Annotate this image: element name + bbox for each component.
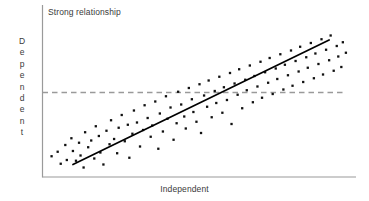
data-point	[157, 148, 159, 150]
y-axis-label-letter: n	[20, 116, 25, 127]
data-point	[200, 132, 202, 134]
plot-canvas	[0, 0, 369, 201]
data-point	[195, 121, 197, 123]
data-point	[128, 157, 130, 159]
data-point	[57, 151, 59, 153]
data-point	[226, 99, 228, 101]
data-point	[307, 67, 309, 69]
data-point	[317, 63, 319, 65]
data-point	[256, 85, 258, 87]
trend-line	[73, 40, 329, 165]
data-point	[328, 59, 330, 61]
data-point	[192, 111, 194, 113]
y-axis-label-letter: p	[20, 59, 25, 70]
data-point	[238, 68, 240, 70]
data-point	[183, 115, 185, 117]
data-point	[60, 163, 62, 165]
data-point	[82, 166, 84, 168]
data-point	[297, 70, 299, 72]
data-point	[208, 79, 210, 81]
data-point	[105, 130, 107, 132]
data-point	[320, 38, 322, 40]
data-point	[299, 46, 301, 48]
data-point	[337, 55, 339, 57]
data-point	[50, 155, 52, 157]
data-point	[279, 53, 281, 55]
data-point	[121, 114, 123, 116]
data-point	[64, 144, 66, 146]
axes	[43, 5, 357, 178]
data-point	[203, 94, 205, 96]
data-point	[93, 157, 95, 159]
data-point	[252, 101, 254, 103]
data-point	[188, 87, 190, 89]
data-point	[139, 145, 141, 147]
data-point	[79, 154, 81, 156]
data-point	[302, 81, 304, 83]
data-point	[211, 116, 213, 118]
data-point	[218, 76, 220, 78]
data-point	[162, 130, 164, 132]
x-axis-label: Independent	[0, 184, 369, 194]
data-point	[177, 91, 179, 93]
y-axis-label-letter: e	[20, 47, 25, 58]
data-point	[249, 64, 251, 66]
data-point	[78, 142, 80, 144]
y-axis-label-letter: e	[20, 70, 25, 81]
data-point	[136, 121, 138, 123]
data-point	[345, 52, 347, 54]
data-point	[287, 74, 289, 76]
data-point	[305, 56, 307, 58]
y-axis-label-letter: D	[19, 36, 25, 47]
data-point	[98, 135, 100, 137]
data-point	[291, 85, 293, 87]
data-point	[180, 103, 182, 105]
data-point	[113, 138, 115, 140]
trend-line-path	[73, 40, 329, 165]
y-axis-label: Dependent	[14, 36, 30, 139]
data-point	[143, 104, 145, 106]
data-point	[87, 146, 89, 148]
data-point	[102, 163, 104, 165]
data-point	[246, 89, 248, 91]
data-point	[133, 109, 135, 111]
data-point	[269, 57, 271, 59]
data-point	[333, 70, 335, 72]
data-point	[215, 102, 217, 104]
y-axis-label-letter: n	[20, 82, 25, 93]
data-point	[75, 160, 77, 162]
data-point	[150, 136, 152, 138]
data-point	[276, 78, 278, 80]
data-point	[185, 127, 187, 129]
data-point	[108, 143, 110, 145]
data-point	[70, 137, 72, 139]
data-point	[191, 98, 193, 100]
data-point	[267, 82, 269, 84]
data-point	[116, 152, 118, 154]
data-point	[241, 107, 243, 109]
data-point	[66, 159, 68, 161]
data-point	[259, 61, 261, 63]
data-point	[221, 112, 223, 114]
data-point	[322, 73, 324, 75]
data-point	[330, 34, 332, 36]
data-point	[325, 49, 327, 51]
data-point	[169, 106, 171, 108]
data-point	[284, 64, 286, 66]
data-points	[50, 34, 347, 168]
data-point	[223, 86, 225, 88]
data-point	[110, 119, 112, 121]
data-point	[84, 131, 86, 133]
data-point	[236, 94, 238, 96]
data-point	[340, 66, 342, 68]
data-point	[172, 139, 174, 141]
data-point	[206, 106, 208, 108]
data-point	[272, 93, 274, 95]
data-point	[342, 41, 344, 43]
data-point	[127, 124, 129, 126]
data-point	[261, 97, 263, 99]
y-axis-label-letter: d	[20, 93, 25, 104]
data-point	[233, 82, 235, 84]
data-point	[95, 125, 97, 127]
data-point	[229, 72, 231, 74]
